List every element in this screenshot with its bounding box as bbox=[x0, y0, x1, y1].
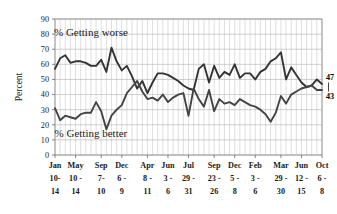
x-tick-label-line: 6 - bbox=[117, 174, 126, 183]
x-tick-label-line: Jun bbox=[295, 161, 309, 170]
x-tick-label-line: 29 - bbox=[182, 174, 195, 183]
x-tick-label-line: Jul bbox=[183, 161, 195, 170]
x-tick-label-line: 14 bbox=[71, 187, 79, 196]
x-tick-label-line: 10 bbox=[97, 187, 105, 196]
y-tick-label: 10 bbox=[41, 136, 49, 145]
x-tick-label-line: 7- bbox=[98, 174, 105, 183]
x-tick-label-line: 12 - bbox=[295, 174, 308, 183]
x-tick-label-line: 31 bbox=[184, 187, 192, 196]
x-tick-label-line: 14 bbox=[51, 187, 59, 196]
line-chart: 0102030405060708090 Jan10-14May10 -14Sep… bbox=[0, 0, 337, 214]
y-tick-label: 90 bbox=[41, 15, 49, 24]
x-tick-label-line: 3 - bbox=[251, 174, 260, 183]
x-tick-label-line: Dec bbox=[115, 161, 129, 170]
y-axis-ticks: 0102030405060708090 bbox=[41, 15, 55, 160]
x-tick-label-line: Jun bbox=[161, 161, 175, 170]
end-label-worse: 47 bbox=[326, 73, 334, 82]
x-tick-label-line: 10 - bbox=[69, 174, 82, 183]
x-tick-label-line: 30 bbox=[277, 187, 285, 196]
x-tick-label-line: 26 bbox=[210, 187, 218, 196]
x-tick-label-line: Sep bbox=[95, 161, 108, 170]
x-tick-label-line: 8 bbox=[233, 187, 237, 196]
series-annotation: % Getting better bbox=[55, 127, 128, 139]
x-tick-label-line: 6 bbox=[253, 187, 257, 196]
series-annotation: % Getting worse bbox=[54, 26, 128, 38]
end-value-labels: 4743 bbox=[326, 73, 334, 101]
x-tick-label-line: Apr bbox=[140, 161, 154, 170]
x-tick-label-line: 8 bbox=[320, 187, 324, 196]
y-tick-label: 30 bbox=[41, 106, 49, 115]
y-tick-label: 70 bbox=[41, 45, 49, 54]
x-tick-label-line: 11 bbox=[144, 187, 152, 196]
y-tick-label: 40 bbox=[41, 90, 49, 99]
y-axis-label: Percent bbox=[14, 72, 24, 101]
x-tick-label-line: Sep bbox=[208, 161, 221, 170]
x-tick-label-line: Mar bbox=[273, 161, 289, 170]
x-tick-label-line: May bbox=[68, 161, 85, 170]
x-tick-label-line: 10- bbox=[50, 174, 61, 183]
y-tick-label: 0 bbox=[45, 151, 49, 160]
x-tick-label-line: Jan bbox=[49, 161, 62, 170]
x-tick-label-line: 6 - bbox=[318, 174, 327, 183]
y-tick-label: 60 bbox=[41, 60, 49, 69]
y-tick-label: 80 bbox=[41, 30, 49, 39]
x-tick-label-line: 15 bbox=[297, 187, 305, 196]
x-tick-label-line: 3 - bbox=[164, 174, 173, 183]
chart-container: 0102030405060708090 Jan10-14May10 -14Sep… bbox=[0, 0, 337, 214]
x-tick-label-line: 29 - bbox=[274, 174, 287, 183]
y-tick-label: 20 bbox=[41, 121, 49, 130]
x-axis-ticks: Jan10-14May10 -14Sep7-10Dec6 -9Apr8 -11J… bbox=[49, 155, 329, 196]
x-tick-label-line: Dec bbox=[228, 161, 242, 170]
x-tick-label-line: Feb bbox=[249, 161, 263, 170]
x-tick-label-line: 23 - bbox=[208, 174, 221, 183]
end-label-better: 43 bbox=[326, 92, 334, 101]
x-tick-label-line: Oct bbox=[316, 161, 329, 170]
x-tick-label-line: 6 bbox=[166, 187, 170, 196]
y-tick-label: 50 bbox=[41, 75, 49, 84]
x-tick-label-line: 8 - bbox=[143, 174, 152, 183]
x-tick-label-line: 5 - bbox=[230, 174, 239, 183]
x-tick-label-line: 9 bbox=[120, 187, 124, 196]
